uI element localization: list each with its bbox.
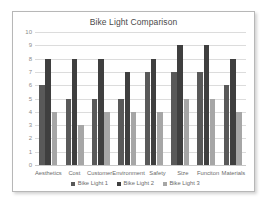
chart-x-axis-labels: AestheticsCostCustomerEnvironmentSafetyS… bbox=[35, 167, 246, 179]
legend-label: Bike Light 3 bbox=[169, 181, 199, 187]
bar[interactable] bbox=[145, 72, 151, 165]
bar[interactable] bbox=[177, 45, 183, 165]
screenshot-root: Bike Light Comparison 109876543210 Aesth… bbox=[0, 0, 268, 203]
y-axis-tick-label: 10 bbox=[25, 29, 35, 35]
bar[interactable] bbox=[157, 112, 163, 165]
chart-plot-wrapper: 109876543210 AestheticsCostCustomerEnvir… bbox=[21, 31, 250, 187]
bar[interactable] bbox=[98, 59, 104, 165]
bar[interactable] bbox=[171, 72, 177, 165]
chart-object[interactable]: Bike Light Comparison 109876543210 Aesth… bbox=[12, 11, 255, 192]
bar-group bbox=[88, 32, 114, 165]
bar[interactable] bbox=[197, 72, 203, 165]
x-axis-category-label: Environment bbox=[112, 167, 145, 179]
x-axis-category-label: Safety bbox=[145, 167, 170, 179]
bar[interactable] bbox=[224, 85, 230, 165]
bar[interactable] bbox=[230, 59, 236, 165]
bar-group bbox=[61, 32, 87, 165]
bar[interactable] bbox=[236, 112, 242, 165]
chart-bars-layer bbox=[35, 32, 246, 165]
x-axis-category-label: Cost bbox=[62, 167, 87, 179]
x-axis-category-label: Customer bbox=[87, 167, 112, 179]
legend-item[interactable]: Bike Light 3 bbox=[163, 181, 200, 187]
bar[interactable] bbox=[151, 59, 157, 165]
bar[interactable] bbox=[92, 99, 98, 166]
legend-item[interactable]: Bike Light 1 bbox=[71, 181, 108, 187]
bar[interactable] bbox=[45, 59, 51, 165]
chart-legend[interactable]: Bike Light 1Bike Light 2Bike Light 3 bbox=[21, 181, 250, 187]
bar[interactable] bbox=[125, 72, 131, 165]
chart-title: Bike Light Comparison bbox=[13, 17, 254, 27]
legend-label: Bike Light 2 bbox=[124, 181, 154, 187]
bar[interactable] bbox=[104, 112, 110, 165]
bar[interactable] bbox=[204, 45, 210, 165]
x-axis-category-label: Size bbox=[170, 167, 195, 179]
gridline: 0 bbox=[35, 165, 246, 166]
bar-group bbox=[141, 32, 167, 165]
bar[interactable] bbox=[78, 125, 84, 165]
bar-group bbox=[114, 32, 140, 165]
legend-swatch-icon bbox=[163, 182, 167, 186]
bar[interactable] bbox=[131, 112, 137, 165]
legend-swatch-icon bbox=[71, 182, 75, 186]
bar[interactable] bbox=[72, 59, 78, 165]
chart-plot-area: 109876543210 bbox=[35, 32, 246, 165]
bar[interactable] bbox=[184, 99, 190, 166]
x-axis-category-label: Materials bbox=[221, 167, 246, 179]
legend-item[interactable]: Bike Light 2 bbox=[117, 181, 154, 187]
bar[interactable] bbox=[52, 112, 58, 165]
bar-group bbox=[220, 32, 246, 165]
bar-group bbox=[193, 32, 219, 165]
bar[interactable] bbox=[118, 99, 124, 166]
x-axis-category-label: Aesthetics bbox=[35, 167, 62, 179]
bar-group bbox=[167, 32, 193, 165]
legend-swatch-icon bbox=[117, 182, 121, 186]
bar[interactable] bbox=[39, 85, 45, 165]
bar[interactable] bbox=[210, 99, 216, 166]
x-axis-category-label: Funciton bbox=[195, 167, 220, 179]
bar[interactable] bbox=[66, 99, 72, 166]
legend-label: Bike Light 1 bbox=[78, 181, 108, 187]
bar-group bbox=[35, 32, 61, 165]
